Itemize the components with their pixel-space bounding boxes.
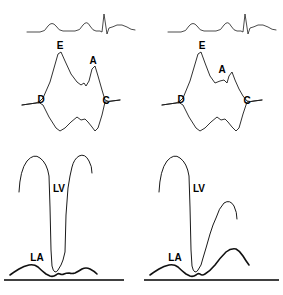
label-point-c-right: C bbox=[243, 95, 250, 106]
panel-top-right: E A D C bbox=[162, 14, 276, 131]
label-lv-left: LV bbox=[53, 183, 65, 194]
panel-bottom-right: LV LA bbox=[144, 156, 279, 280]
panel-top-left: E A D C bbox=[22, 14, 135, 131]
figure-canvas: E A D C E A D C LV LA LV bbox=[0, 0, 283, 295]
label-la-left: LA bbox=[30, 252, 43, 263]
label-point-c-left: C bbox=[102, 95, 109, 106]
panel-bottom-left: LV LA bbox=[4, 155, 124, 280]
label-la-right: LA bbox=[168, 252, 181, 263]
la-pressure-curve-right bbox=[150, 249, 249, 277]
figure-root: E A D C E A D C LV LA LV bbox=[0, 0, 283, 295]
label-point-d-right: D bbox=[177, 94, 184, 105]
label-point-d-left: D bbox=[37, 94, 44, 105]
ecg-trace-left bbox=[27, 14, 135, 34]
ecg-trace-right bbox=[168, 14, 276, 34]
label-point-e-left: E bbox=[57, 40, 64, 51]
label-point-e-right: E bbox=[199, 40, 206, 51]
label-lv-right: LV bbox=[193, 183, 205, 194]
label-point-a-right: A bbox=[218, 64, 225, 75]
label-point-a-left: A bbox=[89, 55, 96, 66]
